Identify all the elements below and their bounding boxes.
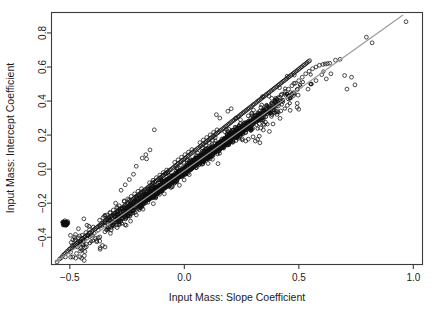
y-tick-label: 0.2 (37, 128, 48, 142)
figure-background (0, 0, 443, 313)
y-tick-label: 0.8 (37, 26, 48, 40)
x-tick-label: 0.0 (177, 272, 191, 283)
y-tick-label: 0.4 (37, 94, 48, 108)
scatter-plot-figure: −0.50.00.51.0 0.80.60.40.20.0−0.2−0.4 In… (0, 0, 443, 313)
x-tick-label: 1.0 (406, 272, 420, 283)
y-tick-label: 0.0 (37, 162, 48, 176)
x-tick-label: 0.5 (292, 272, 306, 283)
x-axis-label: Input Mass: Slope Coefficient (169, 291, 305, 303)
y-tick-label: −0.2 (37, 193, 48, 213)
plot-canvas: −0.50.00.51.0 0.80.60.40.20.0−0.2−0.4 In… (0, 0, 443, 313)
y-axis-label: Input Mass: Intercept Coefficient (4, 63, 16, 213)
x-tick-label: −0.5 (60, 272, 80, 283)
y-tick-label: −0.4 (37, 227, 48, 247)
y-tick-label: 0.6 (37, 60, 48, 74)
